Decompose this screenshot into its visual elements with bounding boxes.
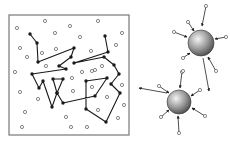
chain-bead-icon [51, 77, 54, 80]
free-particle-icon [54, 47, 57, 50]
chain-bead-icon [69, 55, 72, 58]
free-particle-icon [85, 125, 88, 128]
free-particle-icon [68, 24, 71, 27]
force-arrow-icon [203, 58, 209, 91]
chain-bead-icon [57, 64, 60, 67]
free-particle-icon [25, 55, 28, 58]
force-arrow-icon [180, 72, 182, 88]
chain-bead-icon [102, 55, 105, 58]
chain-bead-icon [61, 77, 64, 80]
chain-bead-icon [117, 72, 120, 75]
colloid-sphere-2 [167, 90, 191, 114]
chain-bead-icon [61, 101, 64, 104]
force-arrow-icon [174, 32, 187, 37]
solvent-particle-icon [157, 84, 160, 87]
free-particle-icon [18, 46, 21, 49]
solvent-particle-icon [214, 69, 217, 72]
chain-bead-icon [72, 61, 75, 64]
solvent-particle-icon [172, 30, 175, 33]
chain-bead-icon [105, 76, 108, 79]
free-particle-icon [105, 95, 108, 98]
free-particle-icon [78, 35, 81, 38]
free-particle-icon [64, 115, 67, 118]
simulation-box [9, 15, 129, 135]
free-particle-icon [90, 85, 93, 88]
free-particle-icon [120, 83, 123, 86]
colloid-spheres-panel [139, 4, 228, 134]
diagram-canvas [0, 0, 230, 147]
free-particle-icon [40, 51, 43, 54]
free-particle-icon [43, 19, 46, 22]
solvent-particle-icon [204, 4, 207, 7]
chain-bead-icon [106, 50, 109, 53]
polymer-box-panel [9, 15, 129, 135]
chain-bead-icon [93, 94, 96, 97]
chain-bead-icon [112, 63, 115, 66]
free-particle-icon [15, 26, 18, 29]
free-particle-icon [69, 125, 72, 128]
colloid-sphere-1 [188, 30, 214, 56]
force-arrow-icon [178, 116, 179, 133]
chain-bead-icon [55, 91, 58, 94]
solvent-particle-icon [159, 115, 162, 118]
solvent-particle-icon [224, 35, 227, 38]
free-particle-icon [53, 31, 56, 34]
chain-bead-icon [30, 72, 33, 75]
solvent-particle-icon [186, 20, 189, 23]
free-particle-icon [71, 89, 74, 92]
force-arrow-icon [192, 108, 205, 116]
solvent-particle-icon [198, 88, 201, 91]
free-particle-icon [18, 90, 21, 93]
force-arrow-icon [208, 57, 216, 71]
free-particle-icon [114, 43, 117, 46]
free-particle-icon [89, 49, 92, 52]
chain-bead-icon [104, 120, 107, 123]
free-particle-icon [13, 70, 16, 73]
solvent-particle-icon [203, 114, 206, 117]
chain-bead-icon [64, 67, 67, 70]
free-particle-icon [122, 103, 125, 106]
free-particle-icon [44, 64, 47, 67]
free-particle-icon [70, 76, 73, 79]
free-particle-icon [36, 97, 39, 100]
chain-bead-icon [84, 79, 87, 82]
free-particle-icon [116, 116, 119, 119]
solvent-particle-icon [181, 69, 184, 72]
chain-bead-icon [118, 91, 121, 94]
chain-bead-icon [41, 79, 44, 82]
chain-bead-icon [72, 46, 75, 49]
free-particle-icon [96, 108, 99, 111]
chain-bead-icon [36, 60, 39, 63]
chain-bead-icon [35, 41, 38, 44]
free-particle-icon [90, 69, 93, 72]
chain-bead-icon [28, 32, 31, 35]
free-particle-icon [120, 31, 123, 34]
free-particle-icon [20, 125, 23, 128]
chain-bead-icon [103, 34, 106, 37]
free-particle-icon [96, 19, 99, 22]
chain-bead-icon [37, 86, 40, 89]
chain-bead-icon [109, 82, 112, 85]
chain-bead-icon [50, 105, 53, 108]
force-arrow-icon [202, 6, 206, 26]
solvent-particle-icon [177, 131, 180, 134]
free-particle-icon [23, 110, 26, 113]
solvent-particle-icon [181, 56, 184, 59]
free-particle-icon [80, 70, 83, 73]
free-particle-icon [100, 64, 103, 67]
chain-bead-icon [84, 107, 87, 110]
